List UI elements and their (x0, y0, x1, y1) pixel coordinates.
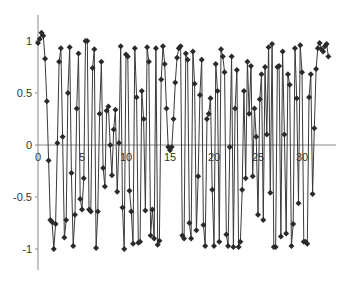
data-point-marker (243, 175, 249, 181)
data-point-marker (239, 187, 245, 193)
data-point-marker (202, 243, 208, 249)
data-point-marker (93, 245, 99, 251)
data-point-marker (193, 227, 199, 233)
data-point-marker (163, 106, 169, 112)
data-point-marker (158, 76, 164, 82)
data-point-marker (114, 189, 120, 195)
data-point-marker (230, 244, 236, 250)
data-point-marker (174, 55, 180, 61)
data-point-marker (260, 217, 266, 223)
data-point-marker (255, 212, 261, 218)
data-series (35, 30, 331, 252)
data-point-marker (142, 208, 148, 214)
data-point-marker (211, 243, 217, 249)
data-point-marker (251, 106, 257, 112)
data-point-marker (183, 50, 189, 56)
data-point-marker (42, 56, 48, 62)
data-point-marker (262, 64, 268, 70)
data-point-marker (207, 95, 213, 101)
y-tick-label: -1 (22, 243, 32, 255)
data-point-marker (213, 61, 219, 67)
data-point-marker (190, 48, 196, 54)
data-point-marker (44, 98, 50, 104)
data-point-marker (250, 173, 256, 179)
data-point-marker (132, 45, 138, 51)
data-point-marker (67, 44, 73, 50)
y-tick-label: 1 (26, 35, 32, 47)
series-line (38, 33, 328, 249)
data-point-marker (317, 40, 323, 46)
data-point-marker (325, 54, 331, 60)
data-point-marker (112, 107, 118, 113)
data-point-marker (248, 63, 254, 69)
data-point-marker (229, 54, 235, 60)
data-point-marker (278, 234, 284, 240)
data-point-marker (107, 142, 113, 148)
data-point-marker (68, 170, 74, 176)
data-point-marker (280, 48, 286, 54)
data-point-marker (297, 42, 303, 48)
data-point-marker (98, 59, 104, 65)
data-point-marker (109, 172, 115, 178)
data-point-marker (130, 241, 136, 247)
data-point-marker (144, 44, 150, 50)
data-point-marker (288, 243, 294, 249)
data-point-marker (311, 125, 317, 131)
data-point-marker (225, 243, 231, 249)
data-point-marker (216, 239, 222, 245)
y-tick-label: 0 (26, 139, 32, 151)
data-point-marker (91, 46, 97, 52)
data-point-marker (172, 80, 178, 86)
data-point-marker (308, 71, 314, 77)
data-point-marker (267, 190, 273, 196)
data-point-marker (283, 230, 289, 236)
chart: 10.50-0.5-1 051015202530 (0, 0, 352, 282)
data-point-marker (199, 57, 205, 63)
data-point-marker (160, 43, 166, 49)
data-point-marker (60, 134, 66, 140)
y-tick-labels: 10.50-0.5-1 (13, 35, 38, 255)
y-tick-label: 0.5 (17, 87, 32, 99)
data-point-marker (292, 45, 298, 51)
data-point-marker (285, 71, 291, 77)
data-point-marker (295, 200, 301, 206)
data-point-marker (222, 69, 228, 75)
data-point-marker (58, 45, 64, 51)
data-point-marker (313, 66, 319, 72)
data-point-marker (46, 158, 52, 164)
data-point-marker (310, 191, 316, 197)
data-point-marker (139, 88, 145, 94)
data-point-marker (61, 235, 67, 241)
data-point-marker (153, 45, 159, 51)
data-point-marker (51, 246, 57, 252)
data-point-marker (236, 244, 242, 250)
data-point-marker (75, 50, 81, 56)
y-tick-label: -0.5 (13, 191, 32, 203)
data-point-marker (79, 206, 85, 212)
data-point-marker (118, 43, 124, 49)
data-point-marker (121, 246, 127, 252)
data-point-marker (70, 243, 76, 249)
data-point-marker (234, 67, 240, 73)
data-point-marker (244, 59, 250, 65)
data-point-marker (102, 184, 108, 190)
data-point-marker (204, 116, 210, 122)
data-point-marker (218, 46, 224, 52)
data-point-marker (259, 71, 265, 77)
data-point-marker (81, 175, 87, 181)
data-point-marker (188, 236, 194, 242)
data-point-marker (241, 88, 247, 94)
x-tick-label: 0 (35, 151, 41, 163)
data-point-marker (171, 116, 177, 122)
data-point-marker (127, 188, 133, 194)
